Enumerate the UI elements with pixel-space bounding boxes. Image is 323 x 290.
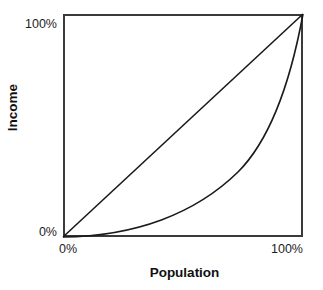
x-axis-tick-0: 0%	[59, 243, 77, 256]
line-of-equality	[63, 14, 303, 237]
y-axis-tick-0: 0%	[39, 226, 57, 239]
y-axis-title: Income	[6, 84, 20, 131]
plot-curves	[63, 14, 303, 237]
lorenz-curve-figure: 100% 0% 0% 100% Population Income	[0, 0, 323, 290]
y-axis-tick-100: 100%	[25, 18, 57, 31]
x-axis-title: Population	[0, 266, 323, 280]
x-axis-tick-100: 100%	[271, 243, 303, 256]
